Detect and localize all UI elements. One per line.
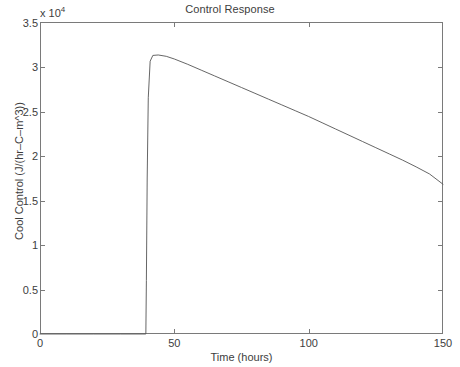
y-tick-label: 3.5 [4,17,38,29]
axes-frame [40,22,443,334]
matlab-figure: Control Response x 104 0 0.5 1 1.5 2 2.5… [0,0,460,367]
y-tick-label: 0.5 [4,284,38,296]
y-tick-mark-right [438,201,443,202]
y-tick-mark-right [438,112,443,113]
y-tick-mark [40,156,45,157]
page-title: Control Response [0,3,460,15]
y-tick-mark-right [438,156,443,157]
y-axis-exponent-base: x 10 [40,7,61,19]
y-tick-mark [40,201,45,202]
y-tick-mark-right [438,67,443,68]
y-axis-label: Cool Control (J/(hr–C–m^3)) [13,61,25,281]
x-tick-label: 50 [168,337,180,349]
x-axis-label: Time (hours) [40,351,443,363]
x-tick-label: 150 [434,337,452,349]
x-tick-mark-top [309,22,310,27]
y-tick-mark [40,245,45,246]
x-tick-label: 0 [37,337,43,349]
y-tick-label: 0 [4,328,38,340]
y-tick-mark [40,290,45,291]
y-axis-exponent-power: 4 [61,5,65,14]
y-tick-mark [40,67,45,68]
y-tick-mark-right [438,290,443,291]
y-tick-mark [40,112,45,113]
y-tick-mark-right [438,245,443,246]
y-axis-exponent-label: x 104 [40,5,65,19]
x-tick-mark-top [174,22,175,27]
x-tick-mark [309,329,310,334]
x-tick-mark [174,329,175,334]
x-tick-label: 100 [300,337,318,349]
